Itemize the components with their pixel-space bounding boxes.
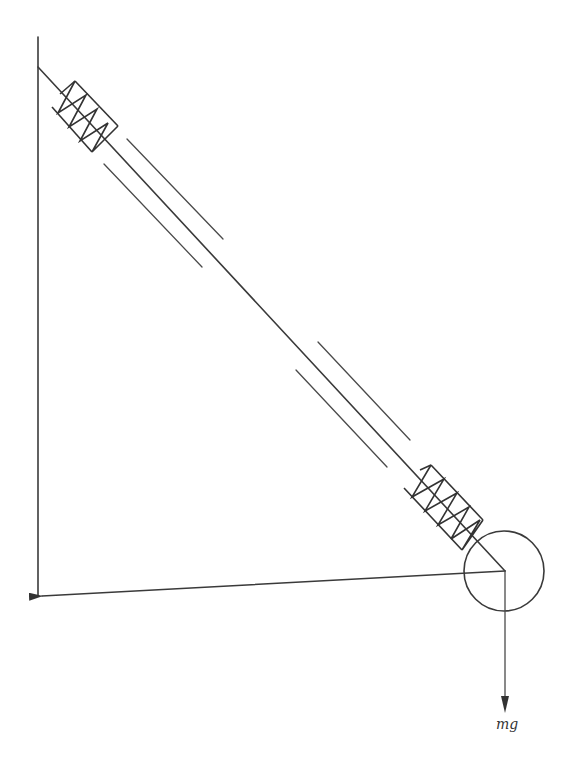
lower-spring-icon: [404, 465, 483, 550]
guide-line-lower-1: [104, 164, 202, 267]
gravity-arrowhead-icon: [501, 696, 509, 713]
guide-line-lower-2: [296, 370, 387, 467]
upper-spring-icon: [52, 81, 118, 152]
gravity-label: mg: [496, 716, 518, 732]
guide-line-upper-2: [318, 342, 410, 440]
horizontal-force-arrow: [42, 571, 505, 596]
diagram-canvas: [0, 0, 572, 778]
guide-line-upper-1: [127, 139, 223, 239]
